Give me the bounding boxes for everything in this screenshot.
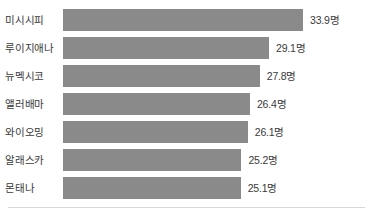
bar-fill bbox=[63, 177, 241, 199]
value-label: 27.8명 bbox=[267, 65, 296, 87]
bar-row: 뉴멕시코27.8명 bbox=[0, 65, 372, 87]
bar-fill bbox=[63, 65, 260, 87]
category-label: 와이오밍 bbox=[0, 121, 57, 143]
plot-area: 미시시피33.9명루이지애나29.1명뉴멕시코27.8명앨러배마26.4명와이오… bbox=[0, 0, 372, 198]
category-label: 뉴멕시코 bbox=[0, 65, 57, 87]
bar-fill bbox=[63, 93, 250, 115]
category-label: 알래스카 bbox=[0, 149, 57, 171]
bar-track: 26.4명 bbox=[63, 93, 372, 115]
value-label: 26.4명 bbox=[257, 93, 286, 115]
bar-track: 33.9명 bbox=[63, 9, 372, 31]
value-label: 26.1명 bbox=[255, 121, 284, 143]
bar-fill bbox=[63, 37, 269, 59]
category-label: 루이지애나 bbox=[0, 37, 57, 59]
horizontal-bar-chart: 미시시피33.9명루이지애나29.1명뉴멕시코27.8명앨러배마26.4명와이오… bbox=[0, 0, 372, 220]
bar-row: 몬태나25.1명 bbox=[0, 177, 372, 199]
bar-fill bbox=[63, 121, 248, 143]
bar-track: 29.1명 bbox=[63, 37, 372, 59]
bar-row: 루이지애나29.1명 bbox=[0, 37, 372, 59]
bar-row: 미시시피33.9명 bbox=[0, 9, 372, 31]
bar-track: 26.1명 bbox=[63, 121, 372, 143]
bar-track: 25.1명 bbox=[63, 177, 372, 199]
value-label: 29.1명 bbox=[276, 37, 305, 59]
value-label: 25.2명 bbox=[248, 149, 277, 171]
bar-fill bbox=[63, 9, 303, 31]
value-label: 33.9명 bbox=[310, 9, 339, 31]
bar-fill bbox=[63, 149, 241, 171]
bottom-divider bbox=[8, 207, 365, 208]
value-label: 25.1명 bbox=[248, 177, 277, 199]
bar-row: 와이오밍26.1명 bbox=[0, 121, 372, 143]
bar-track: 27.8명 bbox=[63, 65, 372, 87]
category-label: 미시시피 bbox=[0, 9, 57, 31]
bar-row: 알래스카25.2명 bbox=[0, 149, 372, 171]
category-label: 앨러배마 bbox=[0, 93, 57, 115]
category-label: 몬태나 bbox=[0, 177, 57, 199]
bar-track: 25.2명 bbox=[63, 149, 372, 171]
bar-row: 앨러배마26.4명 bbox=[0, 93, 372, 115]
